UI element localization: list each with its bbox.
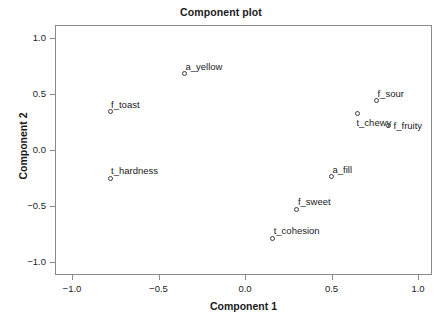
y-tick-label: 1.0	[10, 32, 46, 43]
x-tick-mark	[332, 275, 333, 280]
data-point	[108, 176, 113, 181]
y-tick-mark	[50, 150, 55, 151]
x-tick-label: −0.5	[134, 283, 184, 294]
plot-area	[55, 25, 432, 275]
data-point	[355, 111, 360, 116]
data-point-label: t_hardness	[111, 166, 158, 176]
x-tick-mark	[418, 275, 419, 280]
data-point-label: f_sweet	[298, 197, 331, 207]
x-tick-mark	[245, 275, 246, 280]
data-point	[386, 123, 391, 128]
data-point-label: f_fruity	[394, 121, 423, 131]
y-tick-mark	[50, 206, 55, 207]
x-tick-label: 0.0	[220, 283, 270, 294]
data-point-label: t_cohesion	[274, 226, 320, 236]
chart-title: Component plot	[0, 6, 442, 18]
data-point-label: f_sour	[377, 89, 403, 99]
y-tick-label: −1.0	[10, 256, 46, 267]
x-tick-label: 0.5	[307, 283, 357, 294]
component-plot-figure: Component plot −1.0−0.50.00.51.0 −1.0−0.…	[0, 0, 442, 321]
y-axis-label: Component 2	[17, 76, 29, 216]
x-tick-label: −1.0	[47, 283, 97, 294]
data-point-label: f_toast	[111, 100, 140, 110]
y-tick-mark	[50, 262, 55, 263]
y-tick-mark	[50, 38, 55, 39]
x-tick-label: 1.0	[393, 283, 442, 294]
y-tick-mark	[50, 94, 55, 95]
data-point-label: a_fill	[333, 165, 353, 175]
x-tick-mark	[159, 275, 160, 280]
x-axis-label: Component 1	[55, 300, 432, 312]
x-tick-mark	[72, 275, 73, 280]
data-point-label: a_yellow	[185, 62, 222, 72]
